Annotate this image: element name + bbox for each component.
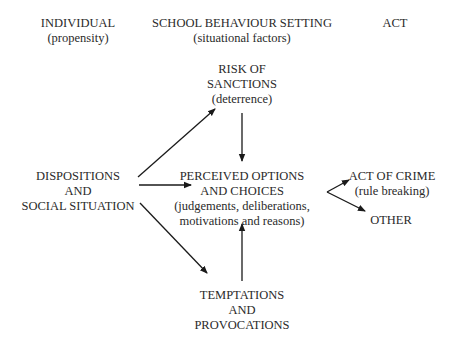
node-line: AND xyxy=(21,184,134,199)
header-individual-subtitle: (propensity) xyxy=(41,31,115,46)
node-line: RISK OF xyxy=(207,62,277,77)
node-line: PROVOCATIONS xyxy=(194,318,289,333)
node-act-of-crime: ACT OF CRIME (rule breaking) xyxy=(349,169,436,199)
header-act-title: ACT xyxy=(383,16,408,31)
node-line: (rule breaking) xyxy=(349,184,436,199)
node-line: SOCIAL SITUATION xyxy=(21,199,134,214)
header-individual-title: INDIVIDUAL xyxy=(41,16,115,31)
node-line: AND CHOICES xyxy=(174,184,310,199)
node-line: SANCTIONS xyxy=(207,77,277,92)
node-line: ACT OF CRIME xyxy=(349,169,436,184)
node-other: OTHER xyxy=(370,213,412,228)
node-line: AND xyxy=(194,303,289,318)
node-line: motivations and reasons) xyxy=(174,214,310,229)
node-line: (judgements, deliberations, xyxy=(174,199,310,214)
header-act: ACT xyxy=(383,16,408,31)
node-temptations: TEMPTATIONS AND PROVOCATIONS xyxy=(194,288,289,333)
header-individual: INDIVIDUAL (propensity) xyxy=(41,16,115,46)
node-line: PERCEIVED OPTIONS xyxy=(174,169,310,184)
node-risk-of-sanctions: RISK OF SANCTIONS (deterrence) xyxy=(207,62,277,107)
arrow-perceived-to-crime xyxy=(327,180,349,192)
node-line: DISPOSITIONS xyxy=(21,169,134,184)
header-setting-subtitle: (situational factors) xyxy=(152,31,332,46)
header-setting-title: SCHOOL BEHAVIOUR SETTING xyxy=(152,16,332,31)
node-line: TEMPTATIONS xyxy=(194,288,289,303)
arrow-dispositions-to-risk xyxy=(138,109,215,177)
node-dispositions: DISPOSITIONS AND SOCIAL SITUATION xyxy=(21,169,134,214)
node-line: (deterrence) xyxy=(207,92,277,107)
node-line: OTHER xyxy=(370,213,412,228)
header-setting: SCHOOL BEHAVIOUR SETTING (situational fa… xyxy=(152,16,332,46)
node-perceived-options: PERCEIVED OPTIONS AND CHOICES (judgement… xyxy=(174,169,310,229)
